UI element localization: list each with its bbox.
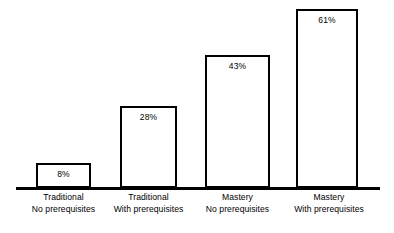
- bar-traditional-no-prerequisites: 8%: [36, 163, 91, 188]
- bar-value-label: 8%: [38, 169, 89, 179]
- x-axis-baseline: [16, 187, 380, 190]
- bar-chart: 8% 28% 43% 61% Traditional No prerequisi…: [0, 0, 394, 233]
- bar-mastery-with-prerequisites: 61%: [296, 9, 358, 188]
- category-label-mastery-with-prerequisites: Mastery With prerequisites: [268, 192, 390, 215]
- x-axis-category-labels: Traditional No prerequisites Traditional…: [0, 192, 394, 233]
- bar-value-label: 61%: [298, 15, 356, 25]
- bar-mastery-no-prerequisites: 43%: [205, 55, 270, 188]
- category-label-line1: Mastery: [268, 192, 390, 204]
- bar-value-label: 28%: [122, 112, 175, 122]
- category-label-line2: With prerequisites: [268, 204, 390, 216]
- bar-traditional-with-prerequisites: 28%: [120, 106, 177, 188]
- plot-area: 8% 28% 43% 61%: [0, 0, 394, 190]
- bar-value-label: 43%: [207, 61, 268, 71]
